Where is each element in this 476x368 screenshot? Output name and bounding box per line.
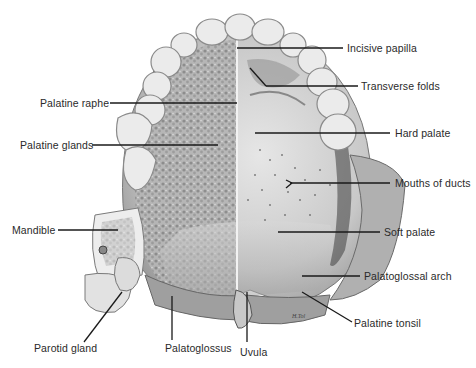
label-uvula: Uvula xyxy=(240,346,267,358)
label-parotid-gland: Parotid gland xyxy=(34,342,97,354)
label-soft-palate: Soft palate xyxy=(384,226,435,238)
label-incisive-papilla: Incisive papilla xyxy=(347,42,417,54)
label-mandible: Mandible xyxy=(12,224,55,236)
label-palatine-tonsil: Palatine tonsil xyxy=(354,317,421,329)
label-mouths-of-ducts: Mouths of ducts xyxy=(395,177,471,189)
label-palatoglossus: Palatoglossus xyxy=(165,342,232,354)
label-palatine-glands: Palatine glands xyxy=(20,139,93,151)
label-palatoglossal-arch: Palatoglossal arch xyxy=(364,270,452,282)
label-hard-palate: Hard palate xyxy=(395,127,450,139)
artist-signature: H.Tol xyxy=(291,313,306,319)
label-transverse-folds: Transverse folds xyxy=(361,80,440,92)
label-palatine-raphe: Palatine raphe xyxy=(40,97,109,109)
palate-diagram: H.Tol Incisive papilla Transverse folds … xyxy=(0,0,476,368)
